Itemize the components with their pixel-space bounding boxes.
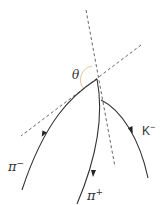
dashed-axis-steep — [86, 10, 115, 167]
track-k-minus — [101, 100, 148, 178]
label-pi-plus: π+ — [86, 187, 103, 203]
arrow-pi-plus-icon — [91, 170, 96, 177]
angle-arc — [81, 66, 92, 89]
theta-label: θ — [72, 68, 80, 82]
label-pi-minus: π− — [7, 158, 24, 174]
track-pi-minus — [22, 79, 97, 190]
track-pi-plus — [77, 79, 100, 204]
decay-diagram: θ π− π+ K− — [0, 0, 167, 205]
label-k-minus: K− — [142, 122, 155, 138]
